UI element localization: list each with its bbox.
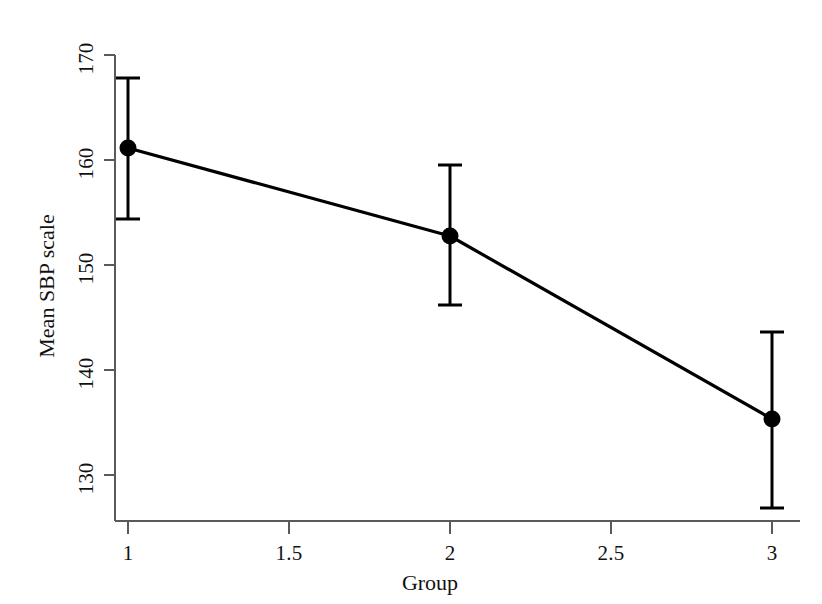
line-chart-plot-area [0,0,822,604]
y-tick-label-140: 140 [74,350,99,398]
x-axis-ticks [128,521,772,534]
x-tick-label-1-5: 1.5 [259,541,319,566]
x-tick-label-1: 1 [98,541,158,566]
x-tick-label-2: 2 [420,541,480,566]
y-tick-label-130: 130 [74,455,99,503]
chart-figure: 170 160 150 140 130 1 1.5 2 2.5 3 Mean S… [0,0,822,604]
x-tick-label-3: 3 [742,541,802,566]
x-axis-title: Group [370,570,490,596]
y-axis-ticks [104,55,115,475]
y-tick-label-150: 150 [74,245,99,293]
axis-spines [115,55,800,521]
data-point-marker-2 [442,228,459,245]
y-tick-label-170: 170 [74,35,99,83]
x-tick-label-2-5: 2.5 [581,541,641,566]
y-tick-label-160: 160 [74,140,99,188]
y-axis-title: Mean SBP scale [34,186,60,386]
data-point-marker-1 [120,140,137,157]
data-point-marker-3 [764,411,781,428]
